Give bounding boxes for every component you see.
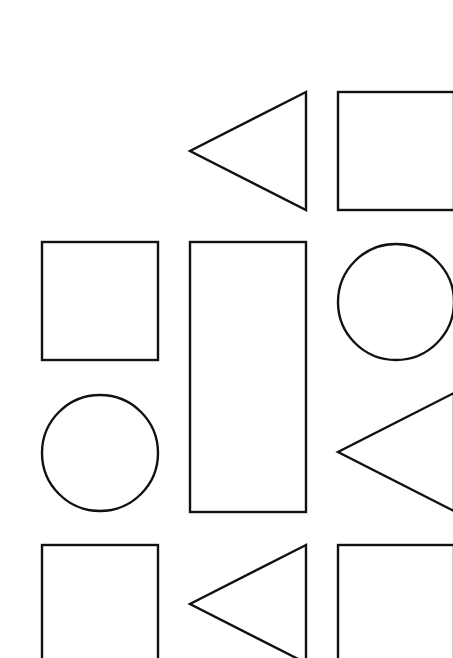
square-r4c3 <box>338 545 453 658</box>
triangle-r4c2 <box>190 545 306 658</box>
square-r4c1 <box>42 545 158 658</box>
triangle-r3c3 <box>338 393 453 511</box>
tall-rectangle-r2c2 <box>190 242 306 512</box>
shape-grid-diagram <box>0 0 453 658</box>
triangle-r1c2 <box>190 92 306 210</box>
square-r2c1 <box>42 242 158 360</box>
circle-r2c3 <box>338 244 453 360</box>
square-r1c3 <box>338 92 453 210</box>
circle-r3c1 <box>42 395 158 511</box>
